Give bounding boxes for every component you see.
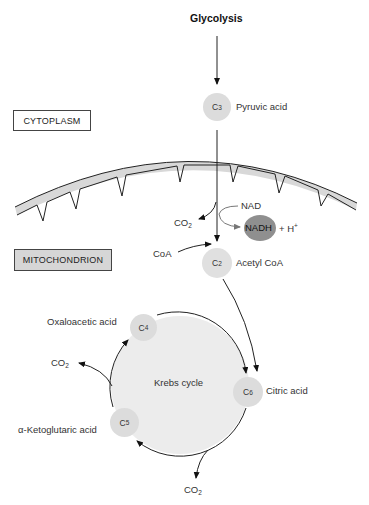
node-c5: C5 xyxy=(110,408,139,437)
mitochondrion-label: MITOCHONDRION xyxy=(14,249,112,271)
node-c6: C6 xyxy=(233,377,263,407)
node-c3: C3 xyxy=(203,93,231,121)
krebs-cycle-label: Krebs cycle xyxy=(154,378,203,388)
co2-sub: 2 xyxy=(188,222,192,229)
oxaloacetic-acid-label: Oxaloacetic acid xyxy=(47,317,117,327)
coa-label: CoA xyxy=(153,249,171,259)
co2-text: CO xyxy=(184,484,198,495)
pyruvic-acid-label: Pyruvic acid xyxy=(236,102,287,112)
node-c3-sub: 3 xyxy=(218,104,222,111)
citric-acid-label: Citric acid xyxy=(266,386,308,396)
co2-release-arrow-1 xyxy=(199,202,216,219)
co2-label-2: CO2 xyxy=(51,358,69,370)
acetyl-coa-label: Acetyl CoA xyxy=(236,258,283,268)
co2-label-3: CO2 xyxy=(184,485,202,497)
node-c2: C2 xyxy=(202,248,232,278)
plus-h-label: + H+ xyxy=(279,223,298,234)
glycolysis-label: Glycolysis xyxy=(190,13,243,24)
nadh-label: NADH xyxy=(245,223,272,233)
node-c6-sub: 6 xyxy=(249,389,253,396)
co2-text: CO xyxy=(174,217,188,228)
node-c2-sub: 2 xyxy=(218,260,222,267)
co2-sub: 2 xyxy=(198,489,202,496)
co2-release-arrow-2 xyxy=(79,363,112,386)
nad-arrow xyxy=(219,206,240,227)
plus-h-text: + H xyxy=(279,223,294,234)
co2-sub: 2 xyxy=(65,362,69,369)
h-sup: + xyxy=(294,222,298,229)
node-c4-sub: 4 xyxy=(145,324,149,331)
cytoplasm-label: CYTOPLASM xyxy=(13,110,91,131)
co2-label-1: CO2 xyxy=(174,218,192,230)
ketoglutaric-acid-label: α-Ketoglutaric acid xyxy=(18,425,97,435)
mitochondrial-membrane xyxy=(15,161,357,221)
co2-text: CO xyxy=(51,357,65,368)
node-c5-sub: 5 xyxy=(126,419,130,426)
node-c4: C4 xyxy=(130,314,157,341)
nad-label: NAD xyxy=(241,201,261,211)
